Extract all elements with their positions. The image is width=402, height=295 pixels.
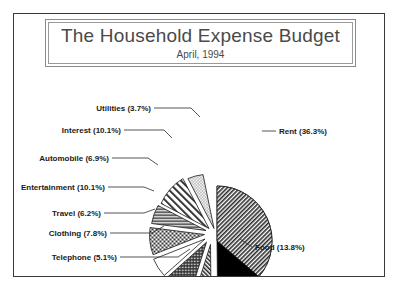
page-title: The Household Expense Budget [61,25,340,47]
pie-label-clothing: Clothing (7.8%) [49,229,108,238]
leader-line-automobile [112,158,158,165]
pie-label-food: Food (13.8%) [255,243,305,252]
pie-label-entertainment: Entertainment (10.1%) [21,183,105,192]
leader-line-interest [124,130,172,138]
pie-label-travel: Travel (6.2%) [52,209,101,218]
pie-label-rent: Rent (36.3%) [279,127,327,136]
chart-frame: The Household Expense Budget April, 1994 [13,13,385,277]
leader-line-travel [104,209,155,213]
pie-chart-plot-area: Utilities (3.7%) Interest (10.1%) Automo… [14,69,384,276]
title-box-inner: The Household Expense Budget April, 1994 [48,22,353,64]
pie-label-interest: Interest (10.1%) [62,126,121,135]
pie-label-automobile: Automobile (6.9%) [39,154,109,163]
pie-label-telephone: Telephone (5.1%) [52,253,118,262]
chart-subtitle: April, 1994 [177,48,225,61]
leader-line-entertainment [108,187,154,191]
pie-chart-svg: Utilities (3.7%) Interest (10.1%) Automo… [14,69,384,276]
pie-label-utilities: Utilities (3.7%) [96,104,151,113]
title-box: The Household Expense Budget April, 1994 [45,19,356,67]
leader-line-utilities [154,108,200,117]
